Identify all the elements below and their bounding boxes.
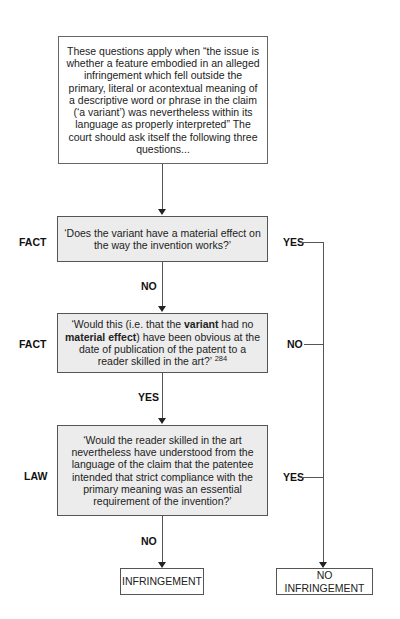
outcome-infringement: INFRINGEMENT <box>120 568 204 595</box>
connector-q2-q3 <box>162 373 163 419</box>
q3-yes-label: YES <box>283 471 304 483</box>
q1-yes-connector <box>300 242 324 243</box>
q2-yes-label: YES <box>138 391 159 403</box>
q2-no-connector <box>304 344 324 345</box>
q3-no-label: NO <box>141 535 157 547</box>
question-box-obviousness: ‘Would this (i.e. that the variant had n… <box>57 313 268 373</box>
variant-bold: variant <box>184 318 218 330</box>
q2-no-label: NO <box>287 338 303 350</box>
q3-yes-connector <box>302 477 324 478</box>
question-box-material-effect: ‘Does the variant have a material effect… <box>57 216 268 262</box>
arrow-head-icon <box>158 306 166 312</box>
right-vertical-connector <box>323 242 324 562</box>
outcome-no-infringement-label: NO INFRINGEMENT <box>283 569 366 594</box>
intro-text: These questions apply when “the issue is… <box>65 45 261 156</box>
intro-box: These questions apply when “the issue is… <box>58 36 268 164</box>
q1-text: ‘Does the variant have a material effect… <box>64 227 261 252</box>
q3-text: ‘Would the reader skilled in the art nev… <box>64 434 261 508</box>
connector-q3-infringement <box>162 516 163 562</box>
footnote-ref: 284 <box>215 354 228 363</box>
arrow-head-icon <box>158 209 166 215</box>
q1-no-label: NO <box>141 280 157 292</box>
material-effect-bold: material effect <box>65 331 136 343</box>
question-box-strict-compliance: ‘Would the reader skilled in the art nev… <box>57 425 268 516</box>
outcome-infringement-label: INFRINGEMENT <box>122 575 202 587</box>
arrow-head-icon <box>158 418 166 424</box>
outcome-no-infringement: NO INFRINGEMENT <box>276 568 373 595</box>
q2-type-label: FACT <box>19 338 46 350</box>
q1-type-label: FACT <box>19 236 46 248</box>
connector-q1-q2 <box>162 262 163 307</box>
q2-text: ‘Would this (i.e. that the variant had n… <box>64 318 261 367</box>
connector-intro-q1 <box>162 164 163 210</box>
q3-type-label: LAW <box>24 470 47 482</box>
